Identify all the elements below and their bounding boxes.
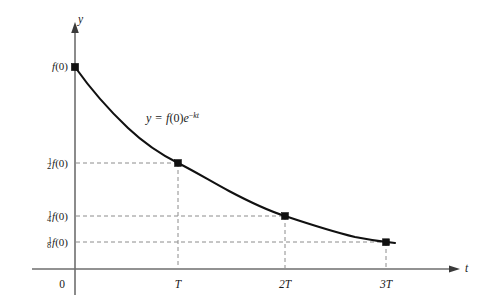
x-tick-label-t: T — [175, 278, 183, 290]
point-2t — [282, 213, 289, 220]
exponential-decay-figure: y t f(0) 12f(0) 14f(0) 18f(0) 0 T 2T 3T … — [0, 0, 484, 307]
decay-curve — [75, 67, 395, 243]
y-tick-label-eighth: 18f(0) — [47, 236, 68, 250]
graph-canvas: y t f(0) 12f(0) 14f(0) 18f(0) 0 T 2T 3T … — [0, 0, 484, 307]
point-3t — [383, 239, 390, 246]
x-tick-label-0: 0 — [59, 278, 65, 290]
x-axis-label: t — [465, 262, 469, 274]
y-tick-label-quarter: 14f(0) — [47, 210, 68, 224]
point-t — [175, 160, 182, 167]
y-axis-label: y — [77, 13, 84, 26]
y-tick-label-half: 12f(0) — [47, 157, 68, 171]
point-t0 — [71, 63, 78, 70]
x-tick-label-2t: 2T — [279, 278, 293, 290]
x-axis-arrow-icon — [449, 265, 460, 272]
curve-equation-annotation: y=f(0)e−kt — [145, 111, 200, 125]
x-tick-label-3t: 3T — [379, 278, 394, 290]
y-tick-label-f0: f(0) — [52, 60, 68, 73]
